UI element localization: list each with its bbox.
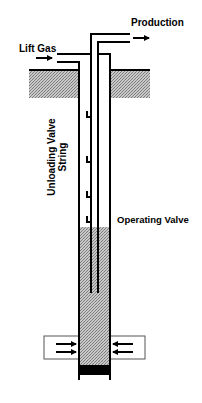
unloading-valve-1 bbox=[87, 111, 90, 117]
operating-valve-label: Operating Valve bbox=[117, 214, 189, 225]
operating-valve-mark bbox=[87, 216, 90, 222]
unloading-valve-label-line2: String bbox=[57, 143, 68, 172]
bottom-plug bbox=[79, 365, 110, 375]
unloading-valves bbox=[87, 111, 90, 222]
ground-surface bbox=[29, 70, 150, 98]
lift-gas-label: Lift Gas bbox=[19, 43, 57, 54]
gas-lift-well-diagram: Production Lift Gas Unloading Valve Stri… bbox=[0, 0, 202, 403]
unloading-valve-label-line1: Unloading Valve bbox=[46, 118, 57, 196]
unloading-valve-string-label: Unloading Valve String bbox=[46, 118, 68, 196]
well-fluid bbox=[79, 227, 110, 365]
production-label: Production bbox=[131, 17, 184, 28]
unloading-valve-3 bbox=[87, 191, 90, 197]
unloading-valve-2 bbox=[87, 156, 90, 162]
